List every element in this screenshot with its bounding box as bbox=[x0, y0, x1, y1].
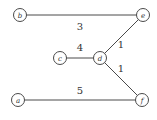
edge-d-e bbox=[100, 15, 143, 58]
node-label-b: b bbox=[18, 12, 23, 20]
edge-weight-a-f: 5 bbox=[77, 85, 83, 96]
node-label-e: e bbox=[141, 12, 145, 20]
node-d: d bbox=[94, 52, 107, 65]
node-b: b bbox=[14, 9, 27, 22]
node-label-c: c bbox=[58, 55, 62, 63]
edge-weight-d-e: 1 bbox=[118, 39, 124, 50]
node-label-a: a bbox=[16, 97, 20, 105]
edge-weight-c-d: 4 bbox=[77, 42, 83, 53]
edge-weight-b-e: 3 bbox=[77, 21, 83, 32]
edge-weight-d-f: 1 bbox=[118, 63, 124, 74]
node-e: e bbox=[137, 9, 150, 22]
node-f: f bbox=[136, 94, 149, 107]
node-a: a bbox=[12, 94, 25, 107]
node-c: c bbox=[54, 52, 67, 65]
node-label-d: d bbox=[98, 55, 103, 63]
weighted-graph-diagram: 3 4 1 1 5 b e c d a f bbox=[0, 0, 157, 120]
